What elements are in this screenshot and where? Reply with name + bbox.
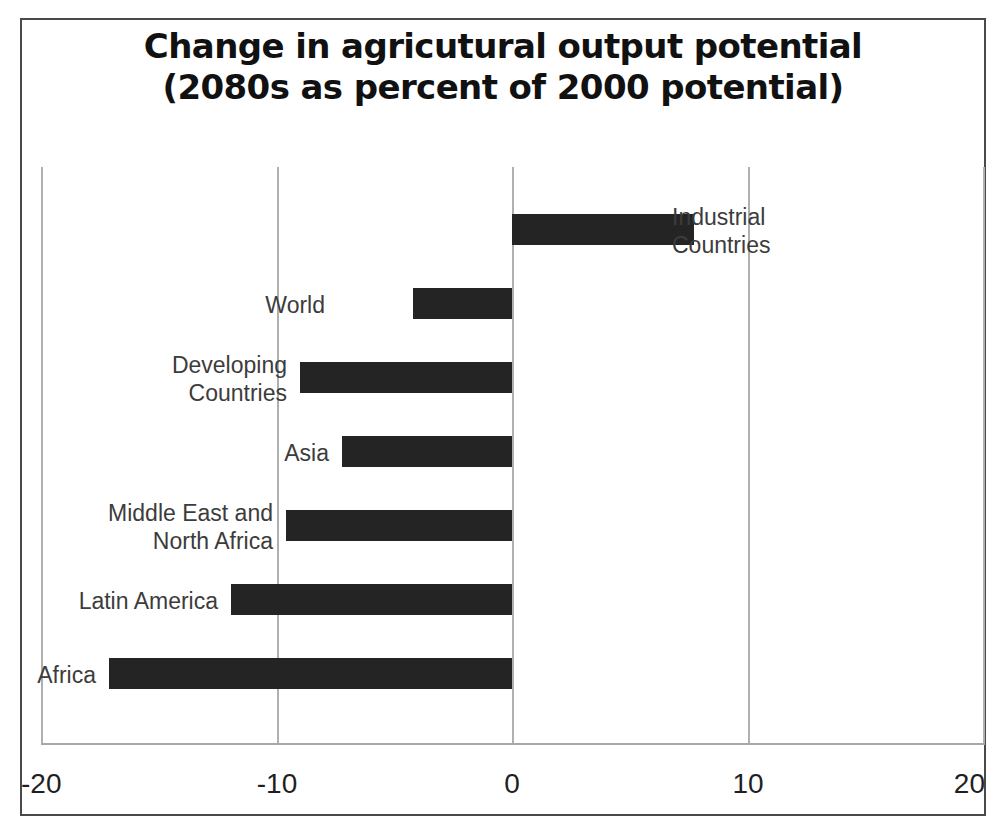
bar-world [413, 288, 512, 319]
bar-label-world-line-1: World [265, 291, 325, 319]
bar-africa [109, 658, 512, 689]
bar-label-developing-countries-line-2: Countries [172, 379, 287, 407]
bar-label-latin-america: Latin America [79, 587, 218, 615]
bar-label-middle-east-north-africa: Middle East and North Africa [108, 499, 273, 555]
bar-label-africa: Africa [37, 661, 96, 689]
xtick-label-pos10: 10 [708, 768, 788, 800]
figure-container: Change in agricutural output potential (… [0, 0, 1004, 838]
bar-label-industrial-countries: Industrial Countries [672, 203, 770, 259]
plot-area [41, 167, 985, 745]
bar-label-industrial-countries-line-2: Countries [672, 231, 770, 259]
bar-developing-countries [300, 362, 512, 393]
bar-label-asia: Asia [284, 439, 329, 467]
bar-label-mena-line-1: Middle East and [108, 499, 273, 527]
gridline-neg20 [41, 167, 43, 743]
bar-asia [342, 436, 512, 467]
bar-label-latin-america-line-1: Latin America [79, 587, 218, 615]
gridline-zero [512, 167, 514, 743]
xtick-label-pos20: 20 [905, 768, 985, 800]
bar-latin-america [231, 584, 512, 615]
bar-industrial-countries [512, 214, 694, 245]
chart-title-line-1: Change in agricutural output potential [40, 26, 966, 67]
bar-label-africa-line-1: Africa [37, 661, 96, 689]
gridline-pos20 [983, 167, 985, 743]
gridline-neg10 [277, 167, 279, 743]
bar-middle-east-north-africa [286, 510, 512, 541]
chart-title: Change in agricutural output potential (… [40, 26, 966, 109]
bar-label-industrial-countries-line-1: Industrial [672, 203, 770, 231]
xtick-label-zero: 0 [472, 768, 552, 800]
xtick-label-neg10: -10 [237, 768, 317, 800]
bar-label-mena-line-2: North Africa [108, 527, 273, 555]
bar-label-developing-countries: Developing Countries [172, 351, 287, 407]
bar-label-asia-line-1: Asia [284, 439, 329, 467]
bar-label-world: World [265, 291, 325, 319]
chart-title-line-2: (2080s as percent of 2000 potential) [40, 67, 966, 108]
xtick-label-neg20: -20 [21, 768, 101, 800]
bar-label-developing-countries-line-1: Developing [172, 351, 287, 379]
